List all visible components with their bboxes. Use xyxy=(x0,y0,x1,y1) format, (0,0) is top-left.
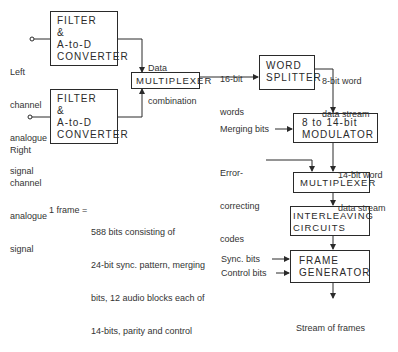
block-line: & xyxy=(57,105,111,117)
block-line: CONVERTER xyxy=(57,129,111,141)
block-line: A-to-D xyxy=(57,39,111,51)
eight-bit-stream-label: 8-bit word data stream xyxy=(322,54,370,131)
sync-bits-label: Sync. bits xyxy=(221,254,260,265)
filter-adc-right-block: FILTER & A-to-D CONVERTER xyxy=(50,89,118,144)
block-line: SPLITTER xyxy=(266,72,308,84)
merging-bits-label: Merging bits xyxy=(220,124,269,135)
output-stream-label: Stream of frames to laser cutter produci… xyxy=(296,301,365,352)
block-line: FILTER xyxy=(57,93,111,105)
block-line: CONVERTER xyxy=(57,51,111,63)
block-line: FILTER xyxy=(57,15,111,27)
block-line: WORD xyxy=(266,60,308,72)
error-correcting-codes-label: Error- correcting codes xyxy=(220,146,260,256)
block-line: A-to-D xyxy=(57,117,111,129)
frame-note: 588 bits consisting of 24-bit sync. patt… xyxy=(91,205,205,352)
word-splitter-block: WORD SPLITTER xyxy=(259,55,315,90)
frame-generator-block: FRAME GENERATOR xyxy=(290,250,370,283)
frame-note-prefix: 1 frame = xyxy=(49,205,87,216)
filter-adc-left-block: FILTER & A-to-D CONVERTER xyxy=(50,11,118,66)
block-line: FRAME xyxy=(299,255,361,267)
control-bits-label: Control bits xyxy=(221,268,267,279)
data-combination-label: Data combination xyxy=(148,41,197,118)
sixteen-bit-words-label: 16-bit words xyxy=(220,52,244,129)
block-line: GENERATOR xyxy=(299,267,361,279)
right-input-label: Right channel analogue signal xyxy=(10,123,47,266)
fourteen-bit-stream-label: 14-bit word data stream xyxy=(338,148,386,225)
left-input-terminal xyxy=(30,37,34,41)
block-line: & xyxy=(57,27,111,39)
